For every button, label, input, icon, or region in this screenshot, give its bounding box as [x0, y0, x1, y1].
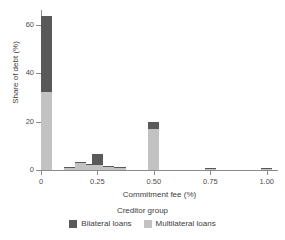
- x-tick-mark: [210, 171, 211, 175]
- x-tick-label: 0.50: [147, 177, 162, 186]
- x-tick-label: 0.75: [203, 177, 218, 186]
- plot-area: [41, 10, 278, 170]
- bar-stack: [75, 162, 86, 170]
- bar-stack: [148, 122, 159, 170]
- bar-stack: [261, 168, 272, 170]
- bar-segment: [114, 168, 125, 170]
- bar-stack: [103, 166, 114, 170]
- x-tick-label: 0.25: [90, 177, 105, 186]
- x-tick-label: 1.00: [259, 177, 274, 186]
- bar-segment: [103, 166, 114, 167]
- bar-segment: [92, 165, 103, 170]
- legend: Creditor group Bilateral loansMultilater…: [0, 206, 285, 228]
- bars-layer: [41, 10, 278, 170]
- legend-swatch-icon: [69, 220, 77, 228]
- x-tick-label: 0: [39, 177, 43, 186]
- y-axis-label: Share of debt (%): [11, 13, 20, 133]
- bar-stack: [41, 16, 52, 170]
- bar-stack: [114, 167, 125, 170]
- bar-segment: [148, 122, 159, 129]
- bar-segment: [75, 162, 86, 163]
- chart-container: 0204060 00.250.500.751.00 Commitment fee…: [0, 0, 285, 240]
- legend-label: Multilateral loans: [156, 219, 216, 228]
- legend-swatch-icon: [144, 220, 152, 228]
- x-axis-line: [41, 170, 278, 171]
- bar-segment: [75, 163, 86, 170]
- bar-segment: [92, 154, 103, 165]
- x-tick-mark: [97, 171, 98, 175]
- x-axis-label: Commitment fee (%): [41, 190, 278, 199]
- bar-segment: [205, 169, 216, 170]
- bar-stack: [64, 167, 75, 170]
- x-tick-mark: [267, 171, 268, 175]
- y-tick-label: 0: [0, 165, 34, 174]
- legend-label: Bilateral loans: [81, 219, 131, 228]
- bar-stack: [92, 154, 103, 170]
- bar-stack: [205, 168, 216, 170]
- legend-item[interactable]: Multilateral loans: [144, 219, 216, 228]
- bar-segment: [103, 167, 114, 170]
- legend-title: Creditor group: [0, 206, 285, 215]
- legend-items: Bilateral loansMultilateral loans: [0, 219, 285, 228]
- legend-item[interactable]: Bilateral loans: [69, 219, 131, 228]
- bar-segment: [261, 169, 272, 170]
- bar-segment: [41, 92, 52, 170]
- bar-segment: [148, 129, 159, 170]
- x-tick-mark: [154, 171, 155, 175]
- x-tick-mark: [41, 171, 42, 175]
- bar-segment: [41, 16, 52, 92]
- bar-segment: [64, 167, 75, 170]
